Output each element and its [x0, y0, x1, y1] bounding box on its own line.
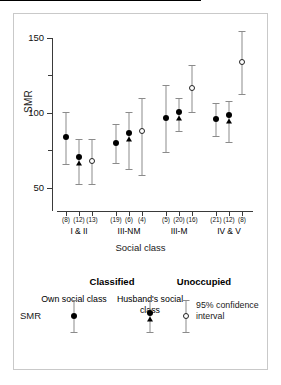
x-group-label: III-M [171, 227, 188, 235]
legend-ci-description: 95% confidence interval [196, 300, 266, 321]
marker-filled-circle [126, 130, 132, 136]
error-bar-cap-lower [176, 131, 183, 132]
marker-filled-circle [213, 116, 219, 122]
error-bar-cap-upper [213, 103, 220, 104]
legend-heading-unoccupied: Unoccupied [177, 276, 231, 287]
error-bar-cap-lower [189, 112, 196, 113]
error-bar-cap-lower [126, 169, 133, 170]
marker-open-circle [89, 158, 95, 164]
marker-filled-circle [76, 154, 82, 160]
y-tick-minor-125 [48, 75, 52, 76]
x-group-label: I & II [70, 227, 87, 235]
x-count-label: (12) [223, 217, 234, 223]
legend-heading-classified: Classified [90, 276, 135, 287]
plot-area: SMR 150 100 50 (8)(12)(13)(19)(6)(4)(5)(… [0, 0, 281, 220]
x-count-label: (4) [138, 217, 146, 223]
error-bar-cap-upper [89, 139, 96, 140]
marker-triangle [176, 115, 182, 120]
marker-filled-circle [113, 140, 119, 146]
marker-filled-circle [63, 134, 69, 140]
error-bar-cap-lower [239, 94, 246, 95]
legend-row-label-smr: SMR [20, 310, 41, 321]
error-bar-cap-upper [239, 31, 246, 32]
figure-panel: SMR 150 100 50 (8)(12)(13)(19)(6)(4)(5)(… [0, 0, 281, 385]
x-axis-spine [57, 211, 253, 212]
x-count-label: (16) [186, 217, 197, 223]
marker-triangle [126, 136, 132, 141]
error-bar-cap-upper [126, 112, 133, 113]
x-count-label: (12) [73, 217, 84, 223]
x-axis-title: Social class [0, 242, 281, 253]
error-bar-cap-upper [76, 139, 83, 140]
reference-line-100 [0, 0, 201, 1]
y-tick-label-50: 50 [0, 183, 44, 193]
marker-filled-circle [176, 109, 182, 115]
error-bar-cap-lower [89, 184, 96, 185]
x-count-label: (8) [62, 217, 70, 223]
marker-open-circle [189, 85, 195, 91]
error-bar-cap-upper [189, 65, 196, 66]
error-bar-cap-lower [139, 175, 146, 176]
x-count-label: (8) [238, 217, 246, 223]
error-bar-cap-lower [76, 184, 83, 185]
x-group-label: IV & V [217, 227, 241, 235]
error-bar-cap-upper [226, 101, 233, 102]
error-bar-cap-upper [176, 98, 183, 99]
marker-triangle [226, 118, 232, 123]
x-count-label: (21) [210, 217, 221, 223]
marker-open-circle [139, 128, 145, 134]
error-bar-line [142, 98, 143, 175]
x-group-label: III-NM [118, 227, 141, 235]
y-tick-minor-75 [48, 150, 52, 151]
error-bar-cap-lower [226, 142, 233, 143]
legend: Classified Unoccupied Own social class H… [0, 258, 281, 373]
y-tick-label-150: 150 [0, 33, 44, 43]
error-bar-cap-upper [139, 98, 146, 99]
y-tick-50 [47, 188, 52, 189]
x-count-label: (20) [173, 217, 184, 223]
x-count-label: (19) [110, 217, 121, 223]
error-bar-cap-lower [163, 152, 170, 153]
y-tick-150 [47, 38, 52, 39]
error-bar-cap-lower [63, 164, 70, 165]
error-bar-cap-upper [163, 85, 170, 86]
error-bar-cap-lower [113, 163, 120, 164]
marker-filled-circle [226, 112, 232, 118]
y-axis-title: SMR [23, 72, 34, 132]
y-tick-label-100: 100 [0, 108, 44, 118]
error-bar-cap-lower [213, 136, 220, 137]
error-bar-cap-upper [113, 124, 120, 125]
y-tick-100 [47, 113, 52, 114]
marker-open-circle [239, 59, 245, 65]
error-bar-cap-upper [63, 112, 70, 113]
x-count-label: (6) [125, 217, 133, 223]
marker-filled-circle [163, 115, 169, 121]
y-axis-spine [52, 38, 53, 211]
x-count-label: (13) [86, 217, 97, 223]
marker-triangle [76, 160, 82, 165]
x-count-label: (5) [162, 217, 170, 223]
